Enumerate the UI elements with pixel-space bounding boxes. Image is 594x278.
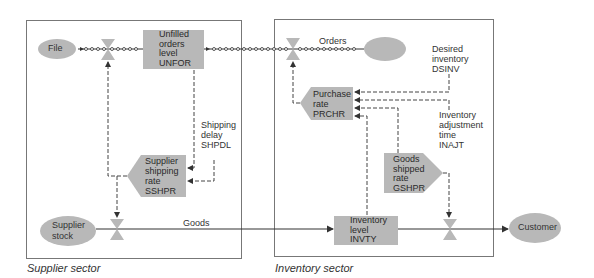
inventory-sector-label: Inventory sector xyxy=(275,262,353,274)
shipping-delay-label: ShippingdelaySHPDL xyxy=(201,120,236,150)
supplier-sector-label: Supplier sector xyxy=(27,262,100,274)
supplier-stock-label: Supplierstock xyxy=(52,220,85,242)
file-label: File xyxy=(48,43,63,54)
customer-label: Customer xyxy=(518,222,557,233)
diagram-canvas xyxy=(0,0,594,278)
inventory-level-label: InventorylevelINVTY xyxy=(350,216,387,245)
desired-inventory-label: DesiredinventoryDSINV xyxy=(432,44,469,74)
unfilled-orders-level-label: UnfilledorderslevelUNFOR xyxy=(159,30,191,68)
orders-flow-label: Orders xyxy=(319,36,347,47)
inventory-adjustment-time-label: InventoryadjustmenttimeINAJT xyxy=(439,110,483,150)
goods-shipped-rate-label: GoodsshippedrateGSHPR xyxy=(393,155,425,193)
orders-flow xyxy=(78,47,364,51)
goods-flow-label: Goods xyxy=(183,218,210,229)
orders-source-cloud xyxy=(364,37,406,61)
supplier-shipping-rate-label: SuppliershippingrateSSHPR xyxy=(145,156,179,196)
purchase-rate-label: PurchaseratePRCHR xyxy=(313,89,351,119)
